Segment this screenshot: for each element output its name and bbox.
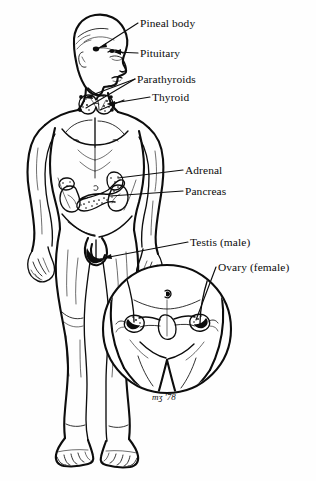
artist-signature: mʒ '78 <box>152 392 176 402</box>
label-testis: Testis (male) <box>190 237 250 249</box>
label-pituitary: Pituitary <box>140 48 180 60</box>
head-group <box>74 15 127 96</box>
label-pineal-body: Pineal body <box>140 18 195 30</box>
female-pelvis-inset <box>103 265 231 398</box>
label-pancreas: Pancreas <box>185 186 226 198</box>
abdomen-adrenal-glands <box>59 172 123 190</box>
diagram-canvas: Pineal body Pituitary Parathyroids Thyro… <box>0 0 316 481</box>
label-thyroid: Thyroid <box>152 92 189 104</box>
label-adrenal: Adrenal <box>185 165 222 177</box>
label-parathyroids: Parathyroids <box>137 74 196 86</box>
groin-testis-marker <box>85 238 107 265</box>
torso-group <box>28 110 164 254</box>
label-ovary: Ovary (female) <box>218 262 289 274</box>
feet-group <box>56 438 138 467</box>
